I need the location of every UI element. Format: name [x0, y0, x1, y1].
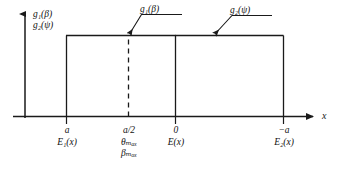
y-axis-label-g2: g₂(ψ): [33, 20, 53, 31]
y-axis-label-g1: g₁(β): [33, 9, 53, 20]
tick-value-a: a: [57, 125, 77, 137]
tick-value-a-over-2: a/2: [121, 125, 137, 137]
y-axis-label-group: g₁(β) g₂(ψ): [33, 9, 53, 31]
tick-name-beta-mod: βₘₒₓ: [121, 148, 137, 160]
tick-label-group-minus-a: −a E₂(x): [274, 125, 294, 148]
figure-canvas: g₁(β) g₂(ψ) g₁(β) g₂(ψ) x a E₁(x) a/2 θₘ…: [0, 0, 344, 180]
callout-leader-line-2: [215, 16, 272, 35]
callout-label-g1: g₁(β): [140, 5, 159, 15]
tick-name-e1: E₁(x): [57, 137, 77, 149]
tick-value-zero: 0: [168, 125, 184, 137]
tick-label-group-a: a E₁(x): [57, 125, 77, 148]
tick-label-group-a-over-2: a/2 θₘₐₓ βₘₒₓ: [121, 125, 137, 160]
tick-label-group-zero: 0 E(x): [168, 125, 184, 148]
x-axis-label: x: [322, 110, 326, 121]
tick-name-theta-max: θₘₐₓ: [121, 137, 137, 149]
callout-label-g2: g₂(ψ): [230, 6, 250, 16]
tick-value-minus-a: −a: [274, 125, 294, 137]
tick-name-e2: E₂(x): [274, 137, 294, 149]
callout-leader-line-1: [130, 15, 183, 35]
tick-name-e: E(x): [168, 137, 184, 149]
